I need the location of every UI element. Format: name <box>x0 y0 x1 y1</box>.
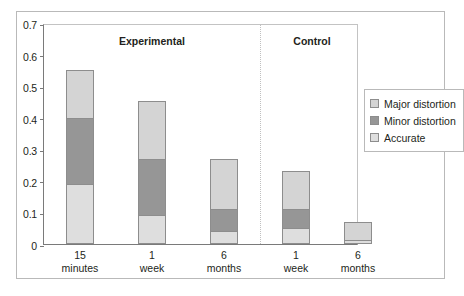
x-axis-label-line1: 15 <box>74 249 86 261</box>
chart-canvas: 00.10.20.30.40.50.60.7 15minutes1week6mo… <box>17 12 446 280</box>
legend-item[interactable]: Minor distortion <box>370 112 456 129</box>
y-axis-tick-mark <box>40 25 44 26</box>
legend-swatch-icon <box>370 99 379 108</box>
y-axis-tick-label: 0.1 <box>23 208 37 220</box>
legend-item[interactable]: Major distortion <box>370 95 456 112</box>
bar-stack[interactable] <box>210 159 238 244</box>
bar-segment[interactable] <box>282 171 310 209</box>
y-axis-tick: 0.5 <box>23 82 44 94</box>
plot-area: 00.10.20.30.40.50.60.7 15minutes1week6mo… <box>43 24 358 245</box>
bar-segment[interactable] <box>138 215 166 244</box>
legend-item[interactable]: Accurate <box>370 129 456 146</box>
legend-swatch-icon <box>370 116 379 125</box>
y-axis-tick-mark <box>40 88 44 89</box>
y-axis-tick-mark <box>40 151 44 152</box>
bar-segment[interactable] <box>210 209 238 231</box>
y-axis-tick-mark <box>40 214 44 215</box>
y-axis-tick-label: 0.7 <box>23 19 37 31</box>
x-axis-label: 6months <box>315 249 401 275</box>
y-axis-tick: 0.7 <box>23 19 44 31</box>
y-axis-tick-label: 0.4 <box>23 114 37 126</box>
y-axis-tick-mark <box>40 119 44 120</box>
y-axis-tick: 0.6 <box>23 51 44 63</box>
y-axis-tick-mark <box>40 182 44 183</box>
bar-stack[interactable] <box>282 171 310 244</box>
group-divider <box>260 25 261 244</box>
y-axis-tick: 0.2 <box>23 177 44 189</box>
y-axis-tick-label: 0.3 <box>23 145 37 157</box>
bar-segment[interactable] <box>66 70 94 117</box>
chart-legend: Major distortionMinor distortionAccurate <box>364 89 464 152</box>
bar-segment[interactable] <box>344 222 372 240</box>
legend-swatch-icon <box>370 133 379 142</box>
bar-segment[interactable] <box>138 101 166 159</box>
y-axis-tick-label: 0.6 <box>23 51 37 63</box>
x-axis-label-line1: 6 <box>355 249 361 261</box>
bar-segment[interactable] <box>138 159 166 214</box>
y-axis-tick: 0.3 <box>23 145 44 157</box>
legend-label: Minor distortion <box>384 115 456 127</box>
bar-segment[interactable] <box>210 159 238 209</box>
bar-stack[interactable] <box>138 101 166 244</box>
x-axis-label-line2: months <box>315 262 401 275</box>
group-title-experimental: Experimental <box>72 35 232 47</box>
bar-segment[interactable] <box>66 118 94 184</box>
x-axis-label-line1: 1 <box>149 249 155 261</box>
y-axis-tick-label: 0.5 <box>23 82 37 94</box>
y-axis-tick-mark <box>40 246 44 247</box>
legend-label: Major distortion <box>384 98 456 110</box>
bar-stack[interactable] <box>344 222 372 244</box>
x-axis-label-line1: 6 <box>221 249 227 261</box>
bar-stack[interactable] <box>66 70 94 244</box>
x-axis-label-line1: 1 <box>293 249 299 261</box>
y-axis-tick-label: 0.2 <box>23 177 37 189</box>
legend-label: Accurate <box>384 132 425 144</box>
bar-segment[interactable] <box>66 184 94 244</box>
y-axis-tick-mark <box>40 56 44 57</box>
bar-segment[interactable] <box>282 209 310 228</box>
group-title-control: Control <box>232 35 392 47</box>
y-axis-tick: 0.1 <box>23 208 44 220</box>
figure-frame: 00.10.20.30.40.50.60.7 15minutes1week6mo… <box>16 11 445 279</box>
bar-segment[interactable] <box>282 228 310 244</box>
bar-segment[interactable] <box>344 240 372 244</box>
y-axis-tick: 0.4 <box>23 114 44 126</box>
bar-segment[interactable] <box>210 231 238 244</box>
